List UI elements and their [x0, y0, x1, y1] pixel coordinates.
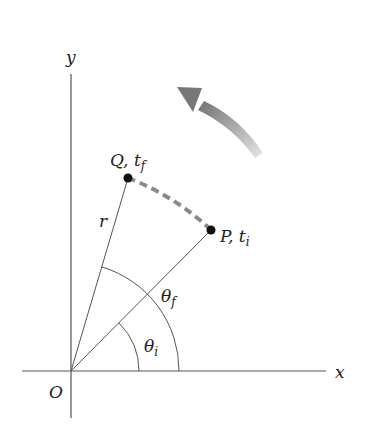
radius-label: r — [99, 211, 108, 231]
theta-i-arc — [119, 323, 139, 371]
point-q — [124, 174, 133, 183]
y-axis-label: y — [65, 47, 76, 67]
theta-f-arc — [102, 267, 179, 371]
p-label: P, ti — [219, 226, 250, 249]
counterclockwise-rotation-arrow — [177, 87, 263, 158]
dashed-path — [128, 178, 211, 230]
theta-i-label: θi — [144, 336, 158, 359]
q-label: Q, tf — [110, 150, 148, 173]
theta-f-label: θf — [161, 286, 178, 309]
origin-label: O — [49, 382, 63, 402]
point-p — [207, 226, 216, 235]
angular-position-diagram: y x O Q, tf P, ti r θf θi — [0, 0, 373, 434]
x-axis-label: x — [335, 362, 345, 382]
